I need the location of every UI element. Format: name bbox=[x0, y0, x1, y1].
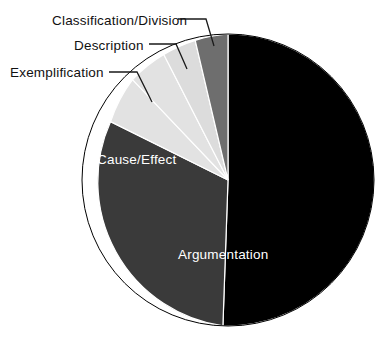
slice-label-cause-effect: Cause/Effect bbox=[97, 153, 176, 167]
slice-label-argumentation: Argumentation bbox=[178, 248, 268, 262]
pie-chart-canvas bbox=[0, 0, 390, 340]
pie-chart-figure: Classification/Division Description Exem… bbox=[0, 0, 390, 340]
slice-label-exemplification: Exemplification bbox=[10, 66, 104, 80]
slice-label-description: Description bbox=[74, 39, 144, 53]
pie-slice-argumentation[interactable] bbox=[223, 34, 374, 326]
slice-label-classification-division: Classification/Division bbox=[52, 14, 187, 28]
